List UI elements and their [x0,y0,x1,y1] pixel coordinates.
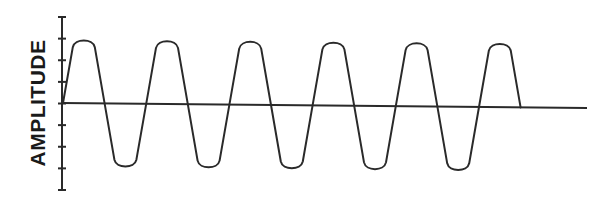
time-baseline [62,103,587,108]
waveform-diagram [0,0,609,205]
